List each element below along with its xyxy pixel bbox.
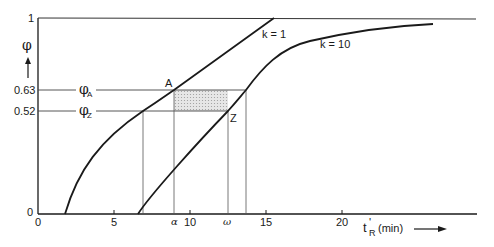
x-axis-title-unit: (min) [378,222,403,234]
chart-figure: 1 0.63 0.52 0 φ φ A φ Z A Z k = 1 k = 10… [0,0,494,247]
up-arrow-icon [25,57,31,64]
x-label-20: 20 [336,216,348,228]
chart-svg: 1 0.63 0.52 0 φ φ A φ Z A Z k = 1 k = 10… [0,0,494,247]
phi-one-line [38,18,476,19]
curve-k1-label: k = 1 [262,28,286,40]
x-label-5: 5 [111,216,117,228]
x-axis-title-t: t [363,220,367,235]
x-label-15: 15 [260,216,272,228]
curve-k1 [65,18,274,214]
y-label-063: 0.63 [14,84,35,96]
y-label-1: 1 [28,12,34,24]
x-axis-title-sub: R [369,228,376,238]
x-label-alpha: α [171,216,178,227]
shaded-region [174,90,228,111]
curve-k10 [138,24,433,214]
right-arrow-icon [438,226,447,232]
x-label-omega: ω [223,216,231,227]
x-label-0: 0 [35,216,41,228]
y-axis-symbol: φ [22,37,32,53]
point-a-label: A [165,77,173,89]
phi-a-sub: A [87,90,93,99]
phi-z-sub: Z [87,111,92,120]
curve-k10-label: k = 10 [320,38,350,50]
y-label-0: 0 [27,206,33,218]
y-label-052: 0.52 [14,105,35,117]
point-z-label: Z [230,112,237,124]
x-label-10: 10 [184,216,196,228]
x-axis-title-prime: ' [369,216,371,228]
